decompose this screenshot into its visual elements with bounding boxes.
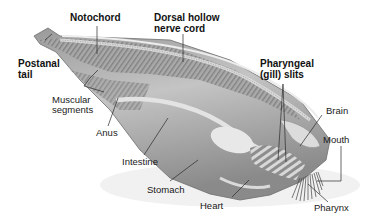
- label-pharyngeal-line2: (gill) slits: [260, 69, 314, 80]
- label-pharyngeal-line1: Pharyngeal: [260, 58, 314, 69]
- label-postanal-line1: Postanal: [18, 58, 60, 69]
- label-muscular-line2: segments: [52, 105, 93, 115]
- label-heart: Heart: [200, 201, 223, 211]
- label-stomach: Stomach: [147, 185, 185, 195]
- label-brain: Brain: [326, 106, 348, 116]
- label-postanal-tail: Postanal tail: [18, 58, 60, 80]
- label-muscular-segments: Muscular segments: [52, 95, 93, 115]
- label-notochord: Notochord: [70, 12, 121, 23]
- label-pharynx: Pharynx: [314, 203, 349, 213]
- label-pharyngeal-gill-slits: Pharyngeal (gill) slits: [260, 58, 314, 80]
- label-postanal-line2: tail: [18, 69, 60, 80]
- chordate-diagram: Notochord Dorsal hollow nerve cord Posta…: [0, 0, 366, 222]
- label-dorsal-line1: Dorsal hollow: [154, 12, 220, 23]
- label-anus: Anus: [96, 128, 118, 138]
- label-intestine: Intestine: [122, 157, 158, 167]
- label-dorsal-line2: nerve cord: [154, 23, 220, 34]
- label-mouth: Mouth: [323, 135, 349, 145]
- label-dorsal-hollow-nerve-cord: Dorsal hollow nerve cord: [154, 12, 220, 34]
